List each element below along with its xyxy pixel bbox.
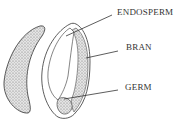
bran-leader [86,51,118,58]
kernel-diagram [0,0,181,134]
label-bran: BRAN [126,42,152,52]
germ [57,98,72,114]
label-endosperm: ENDOSPERM [117,7,173,17]
label-germ: GERM [125,82,152,92]
kernel-outer-half [4,26,45,113]
